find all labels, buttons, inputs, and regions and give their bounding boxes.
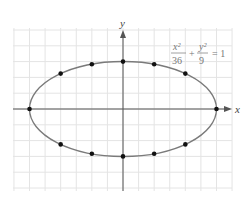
data-point	[58, 71, 63, 76]
y-axis-arrow-icon	[120, 30, 126, 38]
x-axis-label: x	[234, 103, 240, 115]
data-point	[90, 62, 95, 67]
svg-text:= 1: = 1	[212, 48, 225, 59]
svg-text:36: 36	[172, 55, 182, 66]
data-point	[90, 151, 95, 156]
data-point	[152, 62, 157, 67]
x-axis-arrow-icon	[224, 106, 232, 112]
data-point	[27, 107, 32, 112]
data-point	[183, 142, 188, 147]
svg-text:9: 9	[199, 55, 204, 66]
data-point	[121, 154, 126, 159]
data-point	[58, 142, 63, 147]
data-point	[152, 151, 157, 156]
y-axis-label: y	[119, 17, 125, 29]
svg-text:x²: x²	[172, 41, 181, 52]
svg-text:y²: y²	[198, 41, 207, 52]
svg-text:+: +	[189, 48, 195, 59]
data-point	[183, 71, 188, 76]
data-point	[121, 59, 126, 64]
ellipse-graph: x y x² 36 + y² 9 = 1	[0, 0, 248, 207]
equation: x² 36 + y² 9 = 1	[171, 41, 225, 66]
data-point	[214, 107, 219, 112]
